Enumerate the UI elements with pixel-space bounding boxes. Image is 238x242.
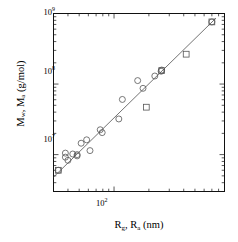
y-axis-title: Mw, Ma (g/mol): [15, 34, 26, 154]
x-tick-label-1e2: 102: [96, 199, 108, 208]
plot-canvas: [0, 0, 238, 242]
data-markers-squares: [55, 19, 214, 173]
figure-root: 109 108 107 102 Mw, Ma (g/mol) Rg, Ra (n…: [0, 0, 238, 242]
y-tick-label-1e7: 107: [44, 135, 56, 144]
x-axis-ticks: [54, 14, 225, 192]
data-markers-circles: [55, 19, 215, 173]
y-tick-label-1e9: 109: [44, 8, 56, 17]
y-tick-label-1e8: 108: [44, 67, 56, 76]
y-axis-ticks: [54, 14, 225, 192]
x-axis-title: Rg, Ra (nm): [53, 219, 225, 230]
